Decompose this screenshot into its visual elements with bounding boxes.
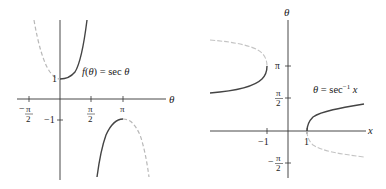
sec-dashed-left-branch xyxy=(34,20,60,79)
y-axis-label: θ xyxy=(284,6,290,18)
sec-solid-lower-branch xyxy=(97,119,123,177)
pi-half-den: 2 xyxy=(88,114,93,124)
function-label: θ = sec−1 x xyxy=(313,83,358,95)
neg-one-label: −1 xyxy=(258,136,269,147)
pi-half-num: π xyxy=(276,88,281,98)
arcsec-solid-left-branch xyxy=(210,66,267,93)
pi-label: π xyxy=(275,61,280,71)
neg-pi-half-num: π xyxy=(276,153,281,163)
left-chart: θ − π 2 π 2 π 1 −1 f(θ) = sec θ xyxy=(17,20,175,180)
right-chart: θ x π π 2 − π 2 −1 1 θ = sec−1 x xyxy=(210,6,373,178)
neg-pi-half-den: 2 xyxy=(26,114,31,124)
neg-pi-half-den: 2 xyxy=(276,163,281,173)
neg-sign-label: − xyxy=(19,103,25,114)
x-axis-label: θ xyxy=(169,93,175,105)
neg-sign-label: − xyxy=(268,156,274,167)
arcsec-solid-right-branch xyxy=(307,104,364,131)
function-label: f(θ) = sec θ xyxy=(82,66,129,78)
neg-pi-half-num: π xyxy=(26,104,31,114)
pi-half-den: 2 xyxy=(276,98,281,108)
pi-half-num: π xyxy=(88,104,93,114)
arcsec-dashed-right-branch xyxy=(307,131,364,157)
neg-one-label: −1 xyxy=(44,114,55,125)
pi-label: π xyxy=(120,104,125,114)
x-axis-label: x xyxy=(367,125,373,136)
one-label: 1 xyxy=(304,136,309,147)
arcsec-dashed-left-branch xyxy=(210,40,267,66)
sec-dashed-right-branch xyxy=(123,119,149,177)
one-label: 1 xyxy=(52,73,57,84)
figure-canvas: θ − π 2 π 2 π 1 −1 f(θ) = sec θ θ x π xyxy=(0,0,386,189)
